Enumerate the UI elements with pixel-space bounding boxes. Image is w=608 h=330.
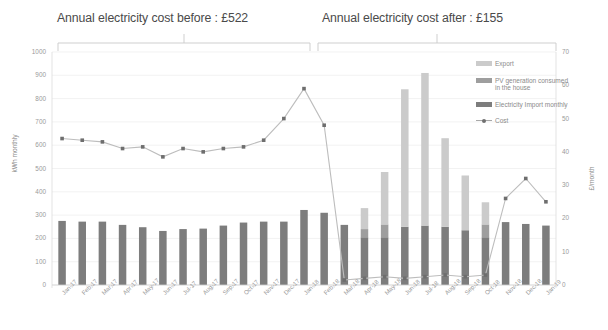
y-tick-right: 70 (562, 48, 588, 55)
y-tick-left: 100 (20, 258, 46, 265)
legend-swatch-icon (476, 61, 492, 66)
chart-container: Annual electricity cost before : £522 An… (0, 0, 608, 330)
y-tick-left: 400 (20, 188, 46, 195)
legend-item[interactable]: Export (476, 60, 568, 68)
legend-label: Cost (495, 117, 568, 125)
legend-label: Export (495, 60, 568, 68)
y-axis-label-right: £/month (588, 149, 595, 209)
y-tick-left: 300 (20, 211, 46, 218)
legend-label: Electricity Import monthly (495, 101, 568, 109)
bracket-group (58, 34, 556, 51)
y-tick-left: 200 (20, 234, 46, 241)
y-tick-left: 0 (20, 281, 46, 288)
legend-item[interactable]: Cost (476, 117, 568, 125)
legend-item[interactable]: PV generation consumed in the house (476, 77, 568, 92)
legend-swatch-icon (476, 102, 492, 107)
y-tick-right: 40 (562, 148, 588, 155)
y-tick-right: 10 (562, 248, 588, 255)
y-tick-left: 600 (20, 141, 46, 148)
y-tick-left: 1000 (20, 48, 46, 55)
legend-item[interactable]: Electricity Import monthly (476, 101, 568, 109)
legend-swatch-icon (476, 78, 492, 83)
legend-label: PV generation consumed in the house (495, 77, 568, 92)
y-tick-left: 700 (20, 118, 46, 125)
y-axis-label-left: kWh monthly (11, 124, 18, 184)
y-tick-left: 900 (20, 71, 46, 78)
legend-line-marker-icon (476, 118, 492, 123)
y-tick-right: 0 (562, 281, 588, 288)
chart-legend: ExportPV generation consumed in the hous… (476, 60, 568, 134)
y-tick-left: 500 (20, 165, 46, 172)
y-tick-right: 30 (562, 181, 588, 188)
y-tick-right: 20 (562, 214, 588, 221)
y-tick-left: 800 (20, 95, 46, 102)
